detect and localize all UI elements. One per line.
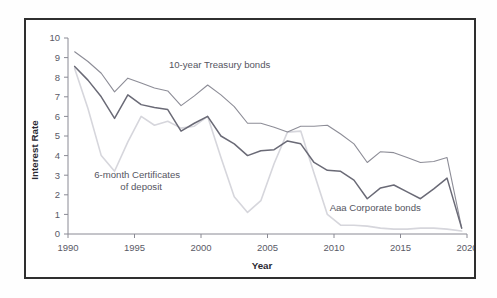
y-axis-title: Interest Rate xyxy=(29,120,40,180)
x-tick-label: 1995 xyxy=(124,242,145,253)
x-tick-label: 1990 xyxy=(57,242,78,253)
y-tick-label: 10 xyxy=(49,32,60,43)
x-tick-label: 2005 xyxy=(257,242,278,253)
annotation-labels-layer: Aaa Corporate bonds10-year Treasury bond… xyxy=(94,59,421,213)
chart-figure: 0123456789101990199520002005201020152020… xyxy=(0,0,497,298)
x-tick-label: 2000 xyxy=(190,242,211,253)
y-tick-label: 9 xyxy=(55,52,60,63)
x-tick-label: 2010 xyxy=(323,242,344,253)
y-tick-label: 0 xyxy=(55,228,60,239)
y-tick-label: 2 xyxy=(55,189,60,200)
x-tick-label: 2015 xyxy=(390,242,411,253)
y-tick-label: 1 xyxy=(55,209,60,220)
y-tick-label: 8 xyxy=(55,72,60,83)
y-tick-label: 4 xyxy=(55,150,60,161)
series-label-6-month-certificates-of-deposit-line2: of deposit xyxy=(120,181,162,192)
series-label-6-month-certificates-of-deposit: 6-month Certificates xyxy=(94,169,180,180)
y-tick-label: 7 xyxy=(55,91,60,102)
chart-frame-border: 0123456789101990199520002005201020152020… xyxy=(24,18,476,279)
y-tick-label: 5 xyxy=(55,130,60,141)
y-tick-label: 3 xyxy=(55,170,60,181)
x-axis-title: Year xyxy=(252,260,273,271)
y-tick-label: 6 xyxy=(55,111,60,122)
series-label-aaa-corporate-bonds: Aaa Corporate bonds xyxy=(330,202,421,213)
line-chart-plot: 0123456789101990199520002005201020152020… xyxy=(26,20,474,277)
x-tick-label: 2020 xyxy=(456,242,474,253)
series-label-10-year-treasury-bonds: 10-year Treasury bonds xyxy=(169,59,271,70)
